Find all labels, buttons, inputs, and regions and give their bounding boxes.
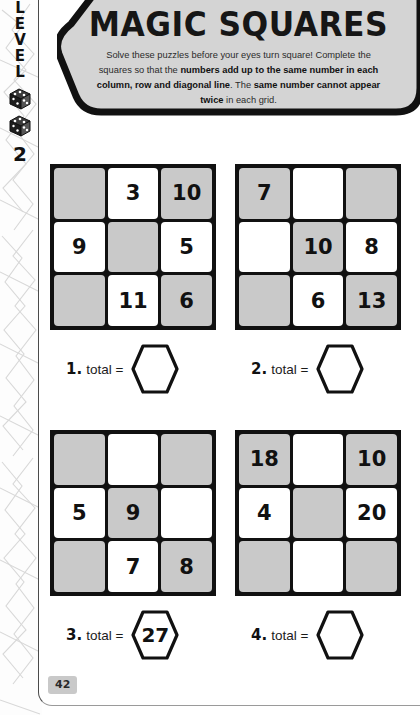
puzzle-2: 7 10 8 6 13 2. total = bbox=[235, 164, 411, 397]
instructions-line3-normal: . The bbox=[230, 80, 251, 90]
puzzle-page: L E V E L bbox=[0, 0, 420, 715]
grid-cell[interactable]: 5 bbox=[54, 488, 105, 539]
level-number: 2 bbox=[13, 142, 27, 166]
grid-cell[interactable] bbox=[346, 168, 397, 219]
puzzle-4: 18 10 4 20 4. total = bbox=[235, 430, 411, 663]
answer-value bbox=[131, 343, 179, 395]
level-letter: L bbox=[15, 66, 25, 82]
grid-cell[interactable] bbox=[54, 168, 105, 219]
grid-cell[interactable]: 7 bbox=[108, 541, 159, 592]
dice-icon bbox=[7, 86, 33, 112]
puzzle-number: 2. bbox=[251, 360, 267, 378]
grid-cell[interactable] bbox=[54, 541, 105, 592]
grid-cell[interactable]: 18 bbox=[239, 434, 290, 485]
grid-cell[interactable]: 8 bbox=[346, 222, 397, 273]
answer-hexagon-2[interactable] bbox=[316, 343, 364, 395]
total-label: total = bbox=[271, 628, 308, 643]
grid-cell[interactable]: 6 bbox=[161, 275, 212, 326]
grid-cell[interactable]: 7 bbox=[239, 168, 290, 219]
total-label: total = bbox=[271, 362, 308, 377]
grid-cell[interactable] bbox=[239, 222, 290, 273]
magic-square-grid-3: 5 9 7 8 bbox=[50, 430, 216, 596]
total-row-2: 2. total = bbox=[235, 341, 411, 397]
grid-cell[interactable]: 8 bbox=[161, 541, 212, 592]
grid-cell[interactable]: 13 bbox=[346, 275, 397, 326]
level-indicator: L E V E L bbox=[0, 2, 40, 172]
grid-cell[interactable] bbox=[239, 275, 290, 326]
grid-cell[interactable]: 9 bbox=[108, 488, 159, 539]
answer-hexagon-1[interactable] bbox=[131, 343, 179, 395]
grid-cell[interactable] bbox=[161, 488, 212, 539]
grid-cell[interactable] bbox=[108, 222, 159, 273]
puzzle-number: 1. bbox=[66, 360, 82, 378]
grid-cell[interactable] bbox=[293, 541, 344, 592]
puzzle-number: 3. bbox=[66, 626, 82, 644]
puzzle-container: 3 10 9 5 11 6 1. total = bbox=[38, 160, 420, 670]
total-label: total = bbox=[86, 362, 123, 377]
grid-cell[interactable] bbox=[293, 168, 344, 219]
magic-square-grid-2: 7 10 8 6 13 bbox=[235, 164, 401, 330]
grid-cell[interactable] bbox=[161, 434, 212, 485]
instructions-line4-normal: in each grid. bbox=[224, 95, 277, 105]
header-banner: MAGIC SQUARES Solve these puzzles before… bbox=[57, 0, 420, 128]
total-row-3: 3. total = 27 bbox=[50, 607, 226, 663]
magic-square-grid-1: 3 10 9 5 11 6 bbox=[50, 164, 216, 330]
total-row-4: 4. total = bbox=[235, 607, 411, 663]
puzzle-3: 5 9 7 8 3. total = 27 bbox=[50, 430, 226, 663]
puzzle-number: 4. bbox=[251, 626, 267, 644]
dice-stack bbox=[7, 86, 33, 139]
answer-value bbox=[316, 343, 364, 395]
grid-cell[interactable] bbox=[293, 488, 344, 539]
total-label: total = bbox=[86, 628, 123, 643]
grid-cell[interactable]: 10 bbox=[293, 222, 344, 273]
puzzle-1: 3 10 9 5 11 6 1. total = bbox=[50, 164, 226, 397]
grid-cell[interactable]: 6 bbox=[293, 275, 344, 326]
answer-value bbox=[316, 609, 364, 661]
grid-cell[interactable] bbox=[346, 541, 397, 592]
magic-square-grid-4: 18 10 4 20 bbox=[235, 430, 401, 596]
grid-cell[interactable]: 5 bbox=[161, 222, 212, 273]
grid-cell[interactable]: 9 bbox=[54, 222, 105, 273]
grid-cell[interactable] bbox=[293, 434, 344, 485]
grid-cell[interactable]: 3 bbox=[108, 168, 159, 219]
page-title: MAGIC SQUARES bbox=[89, 6, 388, 44]
grid-cell[interactable]: 11 bbox=[108, 275, 159, 326]
grid-cell[interactable]: 10 bbox=[346, 434, 397, 485]
grid-cell[interactable] bbox=[108, 434, 159, 485]
answer-hexagon-3[interactable]: 27 bbox=[131, 609, 179, 661]
answer-hexagon-4[interactable] bbox=[316, 609, 364, 661]
grid-cell[interactable] bbox=[239, 541, 290, 592]
level-word: L E V E L bbox=[14, 2, 26, 82]
grid-cell[interactable] bbox=[54, 275, 105, 326]
grid-cell[interactable] bbox=[54, 434, 105, 485]
instructions: Solve these puzzles before your eyes tur… bbox=[89, 48, 389, 108]
instructions-line1: Solve these puzzles before your eyes tur… bbox=[106, 50, 355, 60]
grid-cell[interactable]: 20 bbox=[346, 488, 397, 539]
grid-cell[interactable]: 10 bbox=[161, 168, 212, 219]
instructions-line2-bold: numbers add up to the same bbox=[180, 65, 307, 75]
page-number: 42 bbox=[48, 676, 77, 694]
total-row-1: 1. total = bbox=[50, 341, 226, 397]
grid-cell[interactable]: 4 bbox=[239, 488, 290, 539]
dice-icon bbox=[7, 113, 33, 139]
answer-value: 27 bbox=[131, 609, 179, 661]
